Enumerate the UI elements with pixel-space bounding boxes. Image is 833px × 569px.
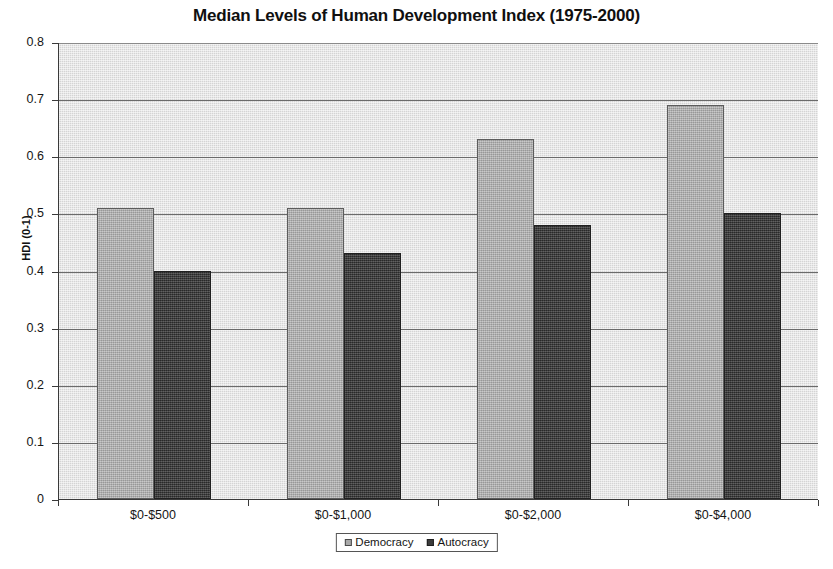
- chart-title: Median Levels of Human Development Index…: [0, 6, 833, 26]
- y-axis-tick-label: 0.6: [4, 149, 44, 163]
- bar-autocracy-3: [534, 225, 591, 499]
- bar-democracy-1: [97, 208, 154, 499]
- legend-item-democracy: Democracy: [344, 536, 413, 548]
- bar-democracy-3: [477, 139, 534, 499]
- y-axis-tick-label: 0.3: [4, 321, 44, 335]
- y-axis-tick-label: 0: [4, 492, 44, 506]
- x-axis-tick: [58, 500, 59, 506]
- x-axis-label-1: $0-$500: [58, 508, 248, 522]
- x-axis-label-2: $0-$1,000: [248, 508, 438, 522]
- x-axis-label-4: $0-$4,000: [628, 508, 818, 522]
- bar-democracy-4: [667, 105, 724, 499]
- chart-legend: DemocracyAutocracy: [335, 533, 497, 552]
- y-axis-tick-label: 0.8: [4, 35, 44, 49]
- y-axis-tick-label: 0.5: [4, 206, 44, 220]
- x-axis-tick: [628, 500, 629, 506]
- y-axis-tick-label: 0.1: [4, 435, 44, 449]
- legend-swatch-autocracy-icon: [427, 539, 434, 546]
- y-axis-tick-label: 0.4: [4, 264, 44, 278]
- bar-autocracy-1: [154, 271, 211, 500]
- gridline: [59, 100, 818, 101]
- x-axis-tick: [248, 500, 249, 506]
- legend-label: Democracy: [355, 536, 413, 548]
- legend-swatch-democracy-icon: [344, 539, 351, 546]
- x-axis-label-3: $0-$2,000: [438, 508, 628, 522]
- gridline: [59, 43, 818, 44]
- plot-area: [58, 43, 818, 500]
- y-axis-tick-label: 0.2: [4, 378, 44, 392]
- legend-label: Autocracy: [438, 536, 489, 548]
- bar-democracy-2: [287, 208, 344, 499]
- bar-autocracy-4: [724, 213, 781, 499]
- y-axis-tick-label: 0.7: [4, 92, 44, 106]
- bar-autocracy-2: [344, 253, 401, 499]
- x-axis-tick: [438, 500, 439, 506]
- x-axis-tick: [818, 500, 819, 506]
- legend-item-autocracy: Autocracy: [427, 536, 489, 548]
